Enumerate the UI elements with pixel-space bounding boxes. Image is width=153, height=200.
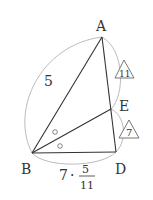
segment-AB xyxy=(32,37,102,153)
segment-BE xyxy=(32,109,111,153)
segment-AD xyxy=(102,37,116,152)
triangle-diagram: A B D E 5 7 · 5 11 11 7 xyxy=(0,0,153,200)
angle-mark-icon xyxy=(58,144,63,149)
vertex-label-A: A xyxy=(95,18,107,34)
arc-BD xyxy=(32,152,116,164)
vertex-label-E: E xyxy=(119,98,129,114)
vertex-label-B: B xyxy=(21,161,31,177)
side-label-BD-dot: · xyxy=(70,167,74,183)
side-label-BD-coef: 7 xyxy=(59,167,68,183)
side-label-AB: 5 xyxy=(44,73,53,89)
angle-mark-icon xyxy=(53,130,58,135)
side-label-BD-denominator: 11 xyxy=(80,179,94,192)
ratio-mark-AE: 11 xyxy=(119,69,130,79)
vertex-label-D: D xyxy=(115,161,126,177)
segment-BD xyxy=(32,152,116,153)
ratio-mark-ED: 7 xyxy=(126,127,132,138)
side-label-BD-numerator: 5 xyxy=(82,163,89,176)
